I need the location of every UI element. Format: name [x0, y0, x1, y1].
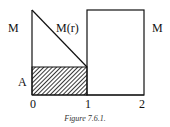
label-left-m: M — [8, 22, 19, 34]
tick-1: 1 — [85, 98, 91, 110]
tick-0: 0 — [30, 98, 36, 110]
curve-line — [32, 10, 87, 67]
right-rectangle — [87, 10, 144, 95]
figure-caption: Figure 7.6.1. — [0, 114, 170, 123]
label-area: A — [18, 76, 27, 88]
hatched-area — [32, 67, 87, 95]
label-right-m: M — [152, 22, 163, 34]
tick-2: 2 — [139, 98, 145, 110]
label-curve: M(r) — [56, 22, 79, 34]
